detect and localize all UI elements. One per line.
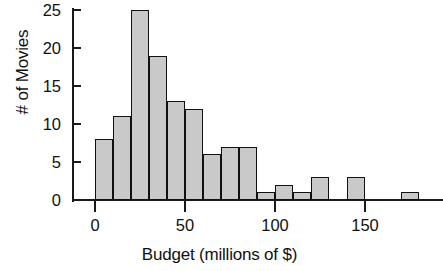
y-axis-tick [72, 47, 81, 49]
x-axis-tick [184, 200, 186, 212]
y-axis-tick-label: 0 [27, 192, 61, 208]
y-axis-tick [72, 161, 81, 163]
y-axis-tick-label: 15 [27, 78, 61, 94]
y-axis-tick [72, 85, 81, 87]
histogram-bar [221, 147, 239, 200]
histogram-bar [149, 56, 167, 200]
y-axis-tick [72, 123, 81, 125]
x-axis-tick [274, 200, 276, 212]
y-axis-line [72, 8, 74, 202]
y-axis-tick [72, 9, 81, 11]
y-axis-tick-label: 20 [27, 40, 61, 56]
histogram-bar [257, 192, 275, 200]
x-axis-tick-label: 100 [255, 217, 295, 233]
histogram-bar [347, 177, 365, 200]
histogram-bar [401, 192, 419, 200]
histogram-bar [167, 101, 185, 200]
histogram-bar [185, 109, 203, 200]
histogram-bar [275, 185, 293, 200]
histogram-bar [311, 177, 329, 200]
x-axis-tick [94, 200, 96, 212]
histogram-bar [113, 116, 131, 200]
x-axis-tick-label: 50 [165, 217, 205, 233]
y-axis-tick-label: 10 [27, 116, 61, 132]
histogram-bar [293, 192, 311, 200]
histogram-bar [95, 139, 113, 200]
y-axis-tick-label: 5 [27, 154, 61, 170]
x-axis-tick [364, 200, 366, 212]
histogram-bar [131, 10, 149, 200]
x-axis-tick-label: 0 [75, 217, 115, 233]
y-axis-tick-label: 25 [27, 2, 61, 18]
histogram-bar [203, 154, 221, 200]
histogram-bar [239, 147, 257, 200]
x-axis-tick-label: 150 [345, 217, 385, 233]
x-axis-title: Budget (millions of $) [0, 245, 439, 265]
